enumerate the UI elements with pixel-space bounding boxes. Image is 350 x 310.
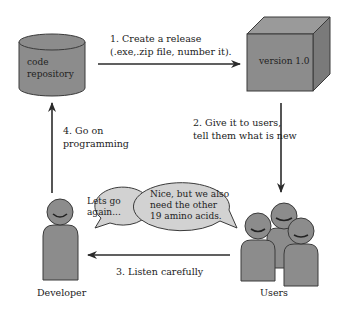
release-cube-icon	[247, 17, 330, 91]
release-label: version 1.0	[259, 56, 310, 67]
step-1-line1: 1. Create a release	[110, 33, 201, 45]
users-bubble-line3: 19 amino acids.	[150, 211, 222, 222]
step-2-line2: tell them what is new	[193, 130, 297, 142]
developer-label: Developer	[37, 287, 86, 299]
developer-bubble-line2: again...	[87, 207, 121, 218]
repository-label-line2: repository	[27, 69, 74, 80]
developer-person-icon	[43, 199, 78, 280]
step-4-line2: programming	[63, 138, 129, 150]
step-2-line1: 2. Give it to users,	[193, 117, 281, 129]
developer-bubble-line1: Lets go	[87, 196, 121, 207]
users-group-icon	[241, 203, 318, 286]
repository-label-line1: code	[27, 57, 49, 68]
users-bubble-line1: Nice, but we also	[150, 189, 229, 200]
release-cycle-diagram: code repository version 1.0 1. Create a …	[0, 0, 350, 310]
step-3-line1: 3. Listen carefully	[116, 266, 203, 278]
users-bubble-line2: need the other	[150, 200, 217, 211]
step-1-line2: (.exe,.zip file, number it).	[110, 46, 232, 58]
users-label: Users	[260, 287, 288, 299]
step-4-line1: 4. Go on	[63, 125, 103, 137]
